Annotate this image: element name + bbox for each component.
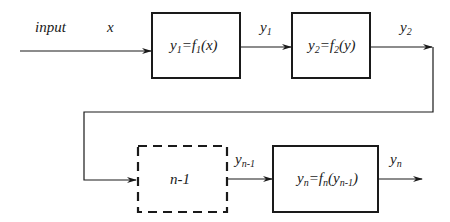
wrap-connector bbox=[84, 47, 433, 180]
y1-label: y1 bbox=[258, 19, 272, 37]
block-1-label: y1=f1(x) bbox=[168, 37, 218, 55]
block-n-label: yn=fn(yn-1) bbox=[295, 170, 358, 188]
block-n-1-label: n-1 bbox=[170, 171, 190, 187]
input-label: input bbox=[35, 19, 67, 35]
yn-label: yn bbox=[388, 151, 402, 169]
y2-label: y2 bbox=[398, 19, 412, 37]
block-diagram: input x y1=f1(x) y1 y2=f2(y) y2 n-1 yn-1… bbox=[0, 0, 450, 222]
block-2-label: y2=f2(y) bbox=[306, 37, 356, 55]
yn-1-label: yn-1 bbox=[233, 151, 255, 169]
x-label: x bbox=[106, 19, 114, 35]
